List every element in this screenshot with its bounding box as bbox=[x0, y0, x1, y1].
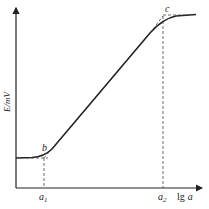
a1-label: a1 bbox=[39, 191, 48, 204]
point-b-label: b bbox=[42, 142, 47, 153]
calibration-curve-diagram: E/mV b c a1 a2 lga bbox=[0, 0, 209, 209]
x-axis-label: lga bbox=[177, 191, 193, 202]
y-axis-label: E/mV bbox=[2, 91, 12, 113]
response-curve bbox=[16, 15, 196, 159]
point-c-label: c bbox=[165, 3, 170, 14]
a2-label: a2 bbox=[158, 191, 167, 204]
